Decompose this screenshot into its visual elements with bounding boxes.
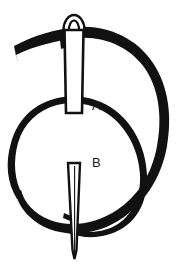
label-b: B: [92, 156, 101, 169]
label-a: A: [92, 99, 101, 112]
needle-shaft: [65, 30, 84, 113]
figure-canvas: A B: [0, 0, 177, 268]
needle-and-thread-drawing: [0, 0, 177, 268]
